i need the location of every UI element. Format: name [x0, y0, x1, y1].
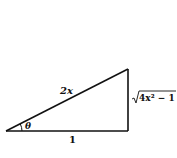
- angle-label: θ: [25, 121, 31, 131]
- adjacent-label: 1: [69, 134, 76, 145]
- angle-arc: [20, 124, 22, 131]
- hypotenuse-label: 2x: [59, 85, 74, 96]
- triangle-diagram: θ 2x 1 4x² − 1: [0, 0, 177, 158]
- opposite-label: 4x² − 1: [139, 93, 175, 103]
